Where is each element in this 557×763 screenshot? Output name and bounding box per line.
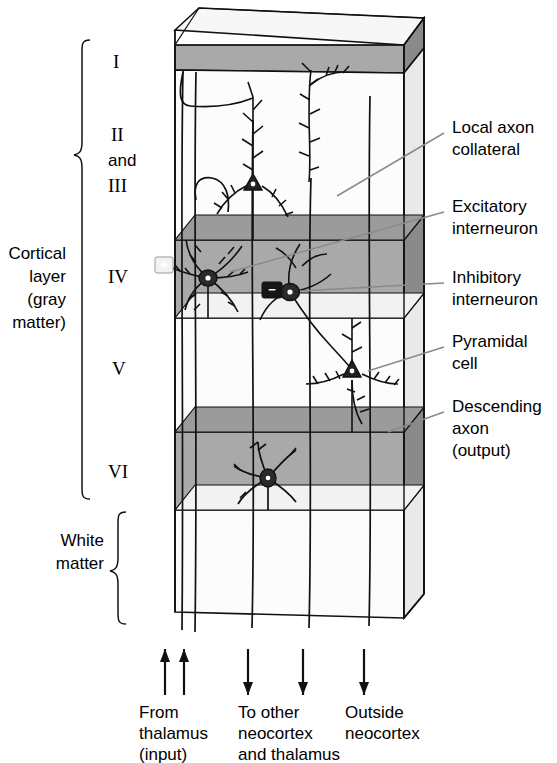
thalamic-afferent-1 (182, 70, 183, 630)
cortical-label-line-1: Cortical (8, 244, 66, 263)
label-line: thalamus (139, 724, 208, 743)
bottom-label-outside-neocortex: Outside neocortex (345, 703, 420, 743)
thalamic-afferent-2 (195, 72, 196, 632)
label-line: interneuron (452, 219, 538, 238)
cortical-column-diagram: + − (0, 0, 557, 763)
right-label-inhibitory-interneuron: Inhibitory interneuron (452, 268, 538, 309)
label-line: and thalamus (238, 745, 340, 763)
figure-canvas: + − (0, 0, 557, 763)
bottom-arrows (160, 649, 369, 695)
white-matter-label-line-2: matter (56, 554, 105, 573)
inhibitory-symbol: − (268, 282, 276, 297)
label-line: Pyramidal (452, 332, 528, 351)
arrow-to-other-neocortex-1 (243, 649, 253, 695)
label-line: (input) (139, 745, 187, 763)
label-line: Outside (345, 703, 404, 722)
right-label-descending-axon: Descending axon (output) (452, 397, 542, 460)
label-line: (output) (452, 441, 511, 460)
block-top-face (175, 8, 424, 45)
arrow-outside-neocortex-1 (359, 649, 369, 695)
bottom-label-to-other-neocortex: To other neocortex and thalamus (238, 703, 340, 763)
layer-numeral-and: and (108, 151, 136, 170)
cortical-layer-bracket (74, 40, 90, 499)
layer-numeral-IV: IV (108, 266, 128, 287)
white-matter-bracket-label: White matter (56, 531, 105, 573)
label-line: axon (452, 419, 489, 438)
label-line: neocortex (345, 724, 420, 743)
cortical-label-line-3: (gray (27, 290, 66, 309)
excitatory-symbol: + (160, 257, 168, 272)
label-line: collateral (452, 140, 520, 159)
cortical-label-line-2: layer (29, 267, 66, 286)
nucleus (350, 369, 355, 374)
white-matter-top (175, 485, 424, 510)
label-line: To other (238, 703, 300, 722)
layer-6-top (175, 407, 424, 432)
white-matter-bracket (110, 512, 126, 624)
bottom-label-from-thalamus: From thalamus (input) (139, 703, 208, 763)
nucleus (287, 289, 292, 294)
layer-numeral-III: III (108, 175, 127, 196)
cortical-layer-bracket-label: Cortical layer (gray matter) (8, 244, 66, 332)
layer-1-front (175, 45, 404, 73)
arrow-to-other-neocortex-2 (298, 649, 308, 695)
label-line: interneuron (452, 290, 538, 309)
cortical-block (175, 8, 424, 618)
layer-numeral-VI: VI (108, 461, 128, 482)
label-line: Excitatory (452, 197, 527, 216)
arrow-from-thalamus-2 (179, 649, 189, 695)
label-line: Descending (452, 397, 542, 416)
label-line: Local axon (452, 118, 534, 137)
label-line: Inhibitory (452, 268, 521, 287)
nucleus (266, 476, 271, 481)
label-line: neocortex (238, 724, 313, 743)
layer-numeral-II: II (111, 124, 124, 145)
layer-2-3-side (404, 48, 424, 240)
right-label-local-axon-collateral: Local axon collateral (452, 118, 534, 159)
cortical-label-line-4: matter) (12, 313, 66, 332)
layer-numeral-V: V (112, 358, 126, 379)
white-matter-label-line-1: White (61, 531, 104, 550)
layer-numerals: I II and III IV V VI (108, 51, 136, 482)
right-label-pyramidal-cell: Pyramidal cell (452, 332, 528, 373)
layer-numeral-I: I (113, 51, 119, 72)
right-label-excitatory-interneuron: Excitatory interneuron (452, 197, 538, 238)
label-line: From (139, 703, 179, 722)
nucleus (205, 275, 210, 280)
nucleus (251, 182, 256, 187)
arrow-from-thalamus-1 (160, 649, 170, 695)
label-line: cell (452, 354, 478, 373)
